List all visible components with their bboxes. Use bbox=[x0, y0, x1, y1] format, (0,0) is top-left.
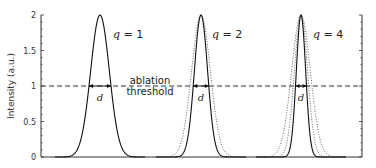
q2-label: q = 2 bbox=[212, 28, 242, 41]
q4-label: q = 4 bbox=[313, 28, 343, 41]
q4-label-text: q = 4 bbox=[313, 28, 343, 41]
q2-label-text: q = 2 bbox=[212, 28, 242, 41]
d-label-1: d bbox=[97, 92, 103, 103]
q1-label: q = 1 bbox=[113, 28, 143, 41]
y-axis-label: Intensity (a.u.) bbox=[6, 53, 16, 119]
intensity-chart: 0 0.5 1 1.5 2 Intensity (a.u.) ablation … bbox=[0, 0, 376, 168]
tick-label-1.5: 1.5 bbox=[23, 47, 36, 56]
d-label-2: d bbox=[198, 92, 204, 103]
d-label-4: d bbox=[298, 92, 304, 103]
tick-label-0: 0 bbox=[31, 153, 36, 162]
threshold-label-line1: ablation bbox=[130, 75, 171, 86]
tick-label-2: 2 bbox=[31, 11, 36, 20]
tick-label-1: 1 bbox=[31, 82, 36, 91]
y-tick-labels: 0 0.5 1 1.5 2 bbox=[23, 11, 36, 162]
tick-label-0.5: 0.5 bbox=[23, 118, 36, 127]
threshold-label-line2: threshold bbox=[126, 86, 173, 97]
q1-label-text: q = 1 bbox=[113, 28, 143, 41]
